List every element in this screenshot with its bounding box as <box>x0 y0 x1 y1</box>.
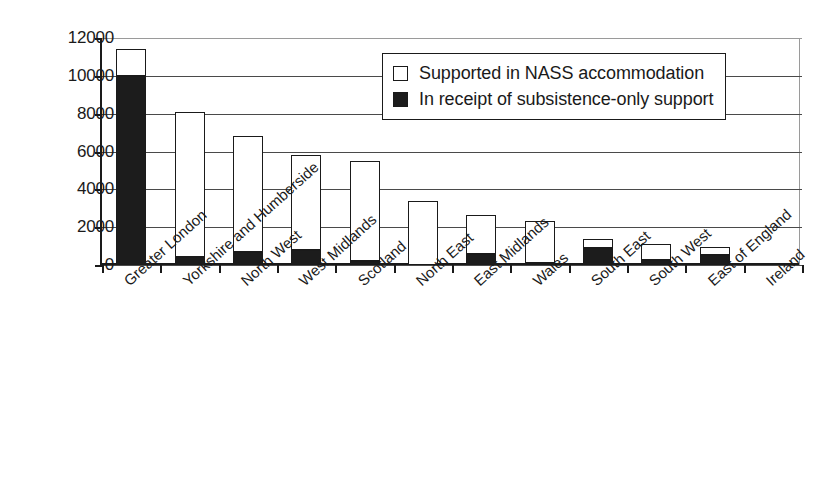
bar-segment-subsistence[interactable] <box>116 76 146 265</box>
x-tick-mark <box>160 265 162 273</box>
chart-legend: Supported in NASS accommodation In recei… <box>382 53 726 120</box>
legend-item-subsistence: In receipt of subsistence-only support <box>393 86 713 112</box>
bar-chart: 020004000600080001000012000 Greater Lond… <box>0 0 820 503</box>
bar-segment-supported[interactable] <box>583 239 613 248</box>
bar-segment-supported[interactable] <box>116 49 146 75</box>
x-tick-mark <box>627 265 629 273</box>
legend-swatch-filled-icon <box>393 92 408 107</box>
x-tick-mark <box>452 265 454 273</box>
y-tick-label: 6000 <box>24 143 114 160</box>
x-tick-mark <box>394 265 396 273</box>
x-tick-mark <box>569 265 571 273</box>
x-tick-mark <box>744 265 746 273</box>
x-tick-mark <box>802 265 804 273</box>
legend-item-supported: Supported in NASS accommodation <box>393 60 713 86</box>
y-tick-label: 4000 <box>24 180 114 197</box>
y-tick-label: 0 <box>24 256 114 273</box>
y-tick-label: 12000 <box>24 29 114 46</box>
x-tick-mark <box>219 265 221 273</box>
y-tick-label: 10000 <box>24 67 114 84</box>
legend-label-supported: Supported in NASS accommodation <box>419 63 704 83</box>
x-tick-mark <box>335 265 337 273</box>
y-tick-label: 2000 <box>24 218 114 235</box>
x-tick-mark <box>685 265 687 273</box>
legend-swatch-open-icon <box>393 66 408 81</box>
bar-segment-supported[interactable] <box>408 201 438 265</box>
legend-label-subsistence: In receipt of subsistence-only support <box>419 89 713 109</box>
bar-group[interactable] <box>116 38 146 265</box>
x-tick-mark <box>277 265 279 273</box>
bar-segment-supported[interactable] <box>700 247 730 255</box>
x-tick-mark <box>510 265 512 273</box>
y-tick-label: 8000 <box>24 105 114 122</box>
